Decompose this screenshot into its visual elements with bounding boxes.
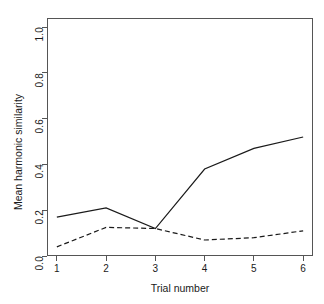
plot-area xyxy=(47,18,313,256)
x-tick-mark xyxy=(56,256,57,261)
chart-container: 0.00.20.40.60.81.0 123456 Mean harmonic … xyxy=(0,0,324,304)
x-tick-label: 4 xyxy=(202,263,208,274)
x-axis-title: Trial number xyxy=(47,282,313,294)
x-tick-mark xyxy=(253,256,254,261)
x-tick-mark xyxy=(155,256,156,261)
x-tick-label: 6 xyxy=(300,263,306,274)
y-tick-label: 0.6 xyxy=(35,119,45,134)
x-tick-label: 1 xyxy=(54,263,60,274)
x-tick-label: 2 xyxy=(103,263,109,274)
y-tick-label: 0.0 xyxy=(35,256,45,271)
x-tick-label: 3 xyxy=(153,263,159,274)
y-tick-label: 0.8 xyxy=(35,73,45,88)
x-tick-mark xyxy=(303,256,304,261)
x-tick-mark xyxy=(106,256,107,261)
x-tick-mark xyxy=(204,256,205,261)
y-axis-title: Mean harmonic similarity xyxy=(12,72,24,232)
dashed-series-line xyxy=(57,227,303,246)
y-tick-label: 1.0 xyxy=(35,27,45,42)
solid-series-line xyxy=(57,137,303,229)
y-tick-label: 0.4 xyxy=(35,164,45,179)
y-tick-label: 0.2 xyxy=(35,210,45,225)
x-tick-label: 5 xyxy=(251,263,257,274)
